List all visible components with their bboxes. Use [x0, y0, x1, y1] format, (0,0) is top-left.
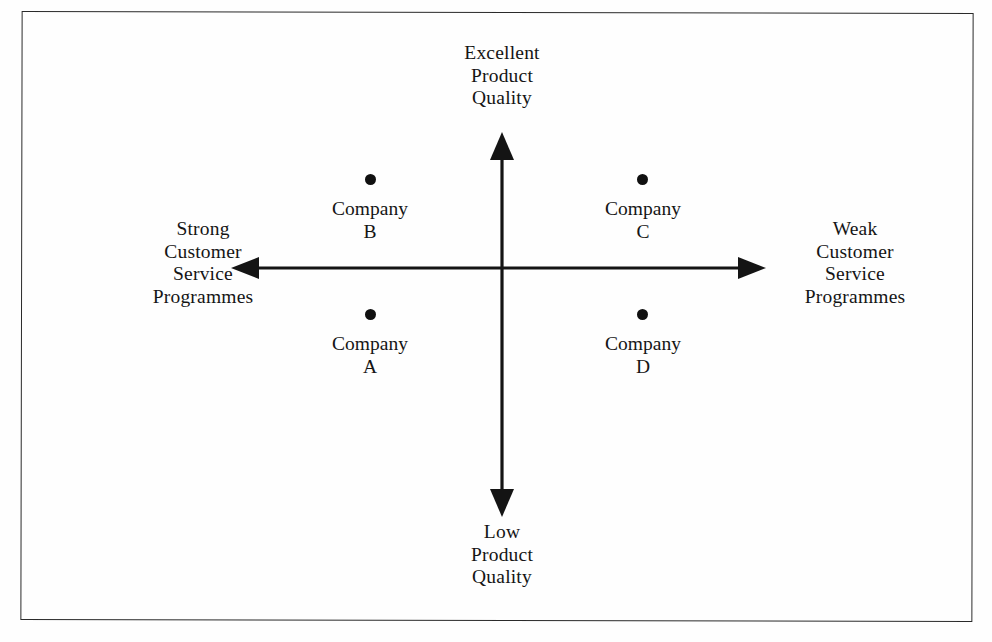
arrowhead-up-icon: [490, 132, 514, 160]
perceptual-map: Excellent Product Quality Low Product Qu…: [0, 0, 992, 642]
data-point-marker[interactable]: [637, 174, 648, 185]
data-point-label: Company B: [300, 197, 440, 243]
scanned-figure-page: Excellent Product Quality Low Product Qu…: [0, 0, 992, 642]
axis-label-bottom: Low Product Quality: [422, 521, 582, 589]
arrowhead-right-icon: [738, 257, 766, 279]
data-point-label: Company A: [300, 332, 440, 378]
data-point-marker[interactable]: [365, 309, 376, 320]
data-point-label: Company C: [573, 197, 713, 243]
axis-label-right: Weak Customer Service Programmes: [775, 218, 935, 308]
data-point-marker[interactable]: [637, 309, 648, 320]
arrowhead-down-icon: [490, 489, 514, 517]
axis-label-left: Strong Customer Service Programmes: [128, 218, 278, 308]
data-point-marker[interactable]: [365, 174, 376, 185]
axis-label-top: Excellent Product Quality: [402, 42, 602, 110]
data-point-label: Company D: [573, 332, 713, 378]
